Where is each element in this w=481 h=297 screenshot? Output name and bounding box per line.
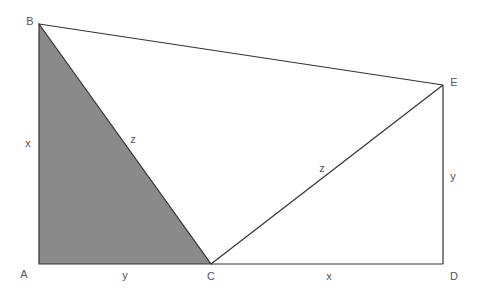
edge-label-ac: y: [122, 270, 128, 281]
edge-label-bc: z: [130, 134, 136, 145]
point-label-a: A: [20, 269, 27, 280]
edge-label-ce: z: [319, 163, 325, 174]
edge-label-ab: x: [25, 138, 31, 149]
edge-ce: [211, 85, 443, 264]
point-label-c: C: [207, 271, 215, 282]
point-label-d: D: [450, 271, 458, 282]
shaded-triangle-abc: [39, 24, 211, 264]
point-label-b: B: [26, 16, 33, 27]
edge-be: [39, 24, 443, 85]
point-label-e: E: [450, 77, 457, 88]
edge-label-de: y: [450, 171, 456, 182]
edge-label-cd: x: [326, 271, 332, 282]
trapezoid-diagram: [0, 0, 481, 297]
